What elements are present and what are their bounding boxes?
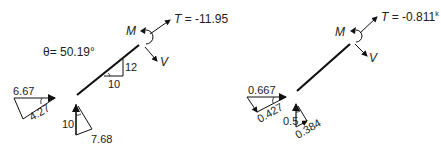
shear-arrow — [355, 44, 367, 56]
moment-label: M — [335, 25, 345, 39]
theta-label: θ= 50.19° — [43, 45, 95, 59]
horizontal-force-triangle: 0.667 0.427 — [247, 84, 286, 125]
shear-arrow — [145, 47, 157, 61]
horizontal-hyp-label: 0.427 — [255, 101, 285, 125]
slope-rise-label: 12 — [125, 61, 137, 73]
free-body-diagrams: θ= 50.19° 12 10 T = -11.95 M V 6.67 4.27 — [0, 0, 441, 151]
tension-arrow — [150, 20, 170, 34]
vertical-force-triangle: 0.5 0.384 — [283, 104, 323, 141]
moment-label: M — [126, 24, 136, 38]
vertical-hyp-label: 7.68 — [91, 133, 112, 145]
horizontal-force-label: 0.667 — [248, 84, 276, 96]
vertical-force-triangle: 10 7.68 — [62, 104, 112, 145]
vertical-force-label: 0.5 — [283, 115, 298, 127]
horizontal-force-label: 6.67 — [13, 85, 34, 97]
horizontal-force-triangle: 6.67 4.27 — [13, 85, 55, 123]
tension-arrow — [360, 17, 377, 33]
slope-run-label: 10 — [108, 78, 120, 90]
moment-arrowhead-icon — [140, 27, 146, 34]
horizontal-hyp-label: 4.27 — [27, 102, 52, 123]
vertical-force-label: 10 — [62, 118, 74, 130]
right-diagram: T = -0.811k M V 0.667 0.427 0.5 0.384 — [247, 10, 439, 141]
shear-label: V — [160, 55, 169, 69]
moment-arrowhead-icon — [350, 27, 356, 34]
tension-label: T = -0.811k — [381, 10, 439, 24]
slope-triangle: 12 10 — [104, 59, 137, 90]
member-line — [297, 44, 350, 91]
left-diagram: θ= 50.19° 12 10 T = -11.95 M V 6.67 4.27 — [13, 12, 228, 145]
shear-label: V — [369, 51, 378, 65]
tension-label: T = -11.95 — [174, 12, 228, 26]
